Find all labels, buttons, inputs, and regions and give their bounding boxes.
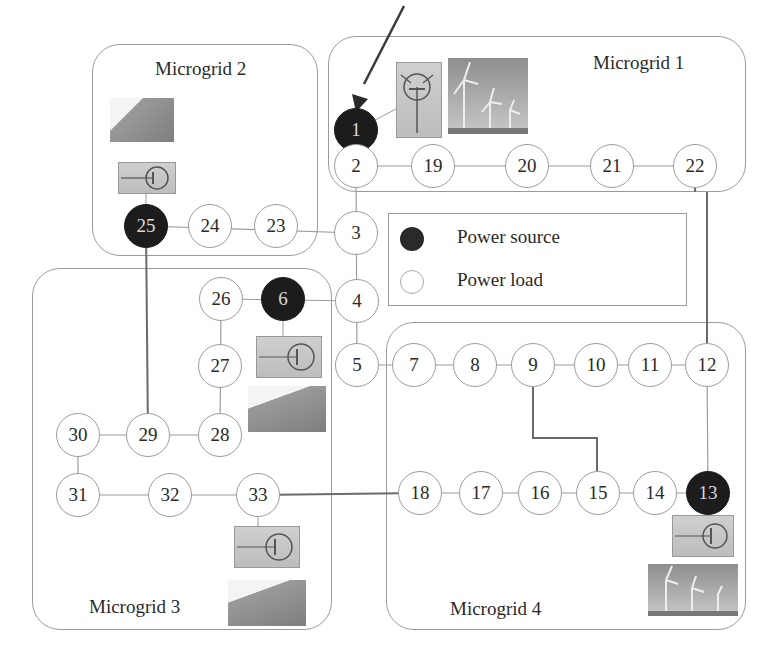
- legend-power-source-label: Power source: [457, 226, 560, 248]
- converter-icon: [396, 62, 442, 138]
- node-17: 17: [459, 471, 503, 515]
- node-23: 23: [254, 204, 298, 248]
- node-9: 9: [511, 343, 555, 387]
- solar-panel-icon: [110, 98, 174, 142]
- node-29: 29: [126, 413, 170, 457]
- node-20: 20: [505, 144, 549, 188]
- node-10: 10: [574, 343, 618, 387]
- node-15: 15: [576, 471, 620, 515]
- converter-icon: [234, 526, 300, 568]
- converter-icon: [118, 162, 176, 194]
- node-25: 25: [124, 204, 168, 248]
- power-load-swatch: [400, 270, 424, 294]
- node-27: 27: [198, 344, 242, 388]
- node-21: 21: [590, 144, 634, 188]
- node-19: 19: [411, 144, 455, 188]
- node-18: 18: [398, 471, 442, 515]
- node-12: 12: [685, 343, 729, 387]
- node-11: 11: [628, 343, 672, 387]
- wind-turbine-icon: [448, 58, 528, 134]
- node-22: 22: [673, 144, 717, 188]
- node-16: 16: [518, 471, 562, 515]
- converter-icon: [256, 336, 322, 378]
- node-31: 31: [56, 473, 100, 517]
- solar-panel-icon: [248, 386, 326, 432]
- converter-icon: [672, 515, 734, 557]
- node-26: 26: [199, 277, 243, 321]
- node-5: 5: [335, 343, 379, 387]
- power-source-swatch: [400, 227, 424, 251]
- node-28: 28: [198, 413, 242, 457]
- node-24: 24: [188, 204, 232, 248]
- node-30: 30: [56, 413, 100, 457]
- node-3: 3: [334, 211, 378, 255]
- node-2: 2: [334, 144, 378, 188]
- wind-turbine-icon: [648, 564, 738, 616]
- legend: Power source Power load: [388, 213, 687, 306]
- node-32: 32: [148, 473, 192, 517]
- node-8: 8: [453, 343, 497, 387]
- node-14: 14: [633, 471, 677, 515]
- node-6: 6: [261, 277, 305, 321]
- legend-power-load-label: Power load: [457, 269, 543, 291]
- node-4: 4: [335, 279, 379, 323]
- node-7: 7: [392, 343, 436, 387]
- node-33: 33: [236, 473, 280, 517]
- node-13: 13: [686, 471, 730, 515]
- microgrid-network-diagram: Microgrid 1 Microgrid 2 Microgrid 3 Micr…: [0, 0, 782, 658]
- solar-panel-icon: [228, 580, 306, 626]
